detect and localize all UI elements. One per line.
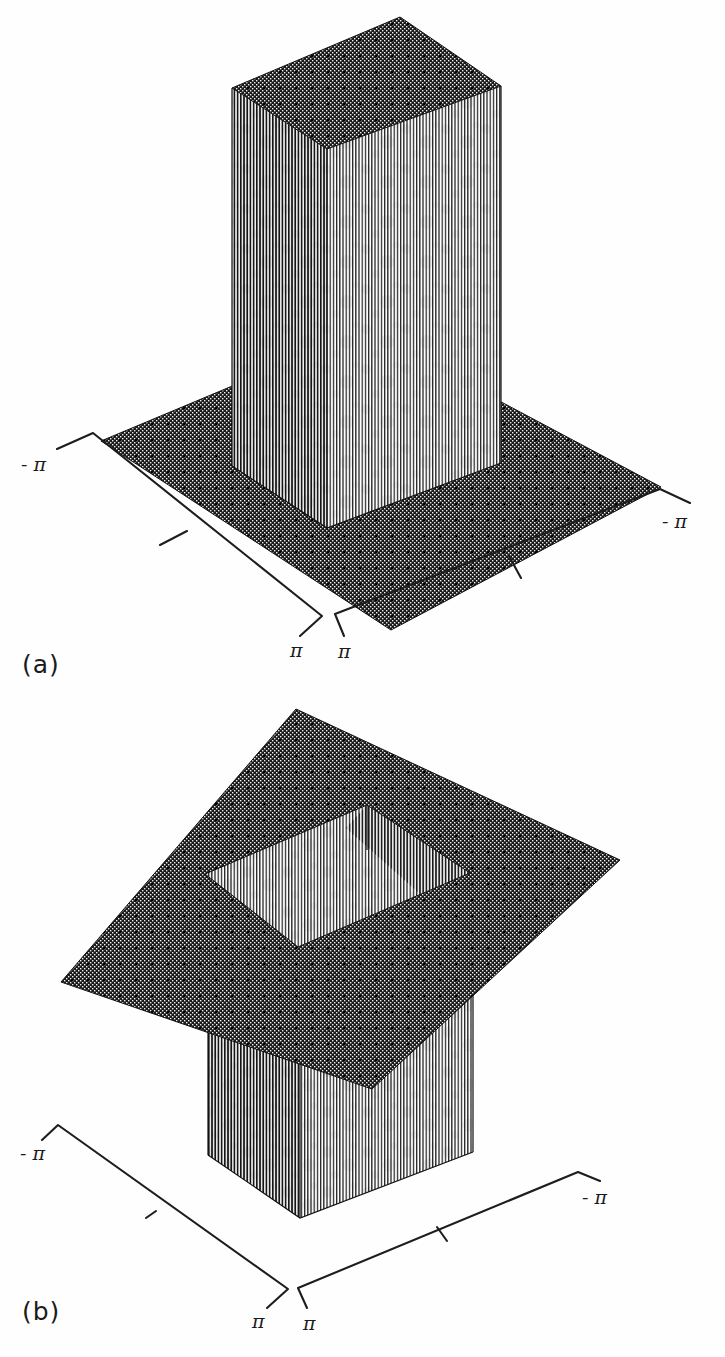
axis-left-b-far-label: - π [20, 1142, 45, 1164]
axis-left-a-far-label: - π [21, 453, 46, 475]
panel-a-plot: - π π π - π [0, 0, 725, 700]
axis-right-b-near-label: π [302, 1312, 316, 1334]
panel-a: - π π π - π [0, 0, 725, 700]
axis-right-a-far-label: - π [662, 510, 687, 532]
panel-b: - π π π - π [0, 700, 725, 1357]
axis-left-b-near-label: π [251, 1310, 265, 1332]
axis-right-b-far-label: - π [582, 1186, 607, 1208]
pulse-column-a [232, 17, 501, 528]
panel-b-plot: - π π π - π [0, 700, 725, 1357]
panel-b-caption: (b) [22, 1297, 60, 1326]
axis-left-a-near-label: π [289, 639, 303, 661]
axis-right-a-near-label: π [337, 640, 351, 662]
figure-page: - π π π - π [0, 0, 725, 1357]
panel-a-caption: (a) [22, 650, 60, 679]
